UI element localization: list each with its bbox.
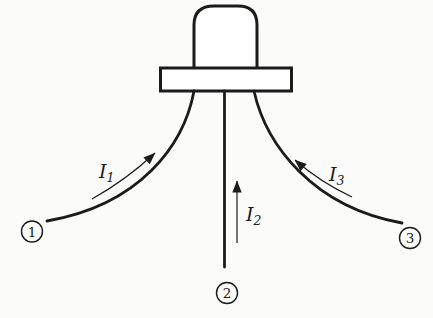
current-label-i1: I1 (98, 160, 114, 185)
terminal-badge-3: 3 (400, 228, 421, 249)
lead-terminal-3 (254, 91, 402, 223)
current-subscript: 1 (107, 170, 115, 185)
current-label-i2: I2 (245, 203, 262, 228)
current-subscript: 3 (337, 173, 345, 188)
current-subscript: 2 (253, 213, 262, 228)
current-label-i3: I3 (328, 163, 345, 188)
transistor-flange (161, 68, 292, 91)
terminal-number-3: 3 (406, 230, 415, 246)
figure-canvas: I1 I2 I3 1 2 3 (0, 0, 433, 318)
lead-terminal-1 (47, 91, 194, 221)
terminal-number-2: 2 (223, 285, 232, 301)
terminal-badge-2: 2 (217, 283, 238, 304)
transistor-current-diagram: I1 I2 I3 1 2 3 (0, 0, 433, 318)
terminal-badge-1: 1 (22, 221, 43, 242)
terminal-number-1: 1 (28, 224, 37, 240)
transistor-body (194, 6, 257, 69)
